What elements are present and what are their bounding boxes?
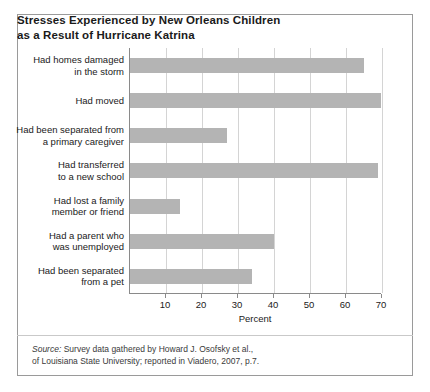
x-tick-40 <box>273 294 274 298</box>
bar-row: Had homes damaged in the storm <box>130 48 381 83</box>
bar-row: Had a parent who was unemployed <box>130 224 381 259</box>
x-tick-label-70: 70 <box>376 299 387 310</box>
bar-row: Had transferred to a new school <box>130 153 381 188</box>
chart-title-line-2: as a Result of Hurricane Katrina <box>17 28 357 43</box>
source-label: Source: <box>32 344 61 354</box>
plot-area: Had homes damaged in the stormHad movedH… <box>129 48 381 294</box>
gridline-70 <box>382 48 383 293</box>
category-label: Had been separated from a primary caregi… <box>0 124 124 147</box>
x-tick-10 <box>165 294 166 298</box>
source-divider <box>17 335 413 336</box>
x-tick-70 <box>381 294 382 298</box>
category-label: Had transferred to a new school <box>0 159 124 182</box>
bar-row: Had moved <box>130 83 381 118</box>
x-tick-label-30: 30 <box>232 299 243 310</box>
category-label: Had lost a family member or friend <box>0 195 124 218</box>
x-tick-label-40: 40 <box>268 299 279 310</box>
bar-series: Had homes damaged in the stormHad movedH… <box>130 48 381 293</box>
chart-title-line-1: Stresses Experienced by New Orleans Chil… <box>17 13 357 28</box>
x-tick-30 <box>237 294 238 298</box>
bar-row: Had been separated from a pet <box>130 259 381 294</box>
x-tick-label-10: 10 <box>160 299 171 310</box>
bar <box>130 128 227 143</box>
x-axis-title: Percent <box>129 313 381 324</box>
x-tick-label-60: 60 <box>340 299 351 310</box>
bar-row: Had been separated from a primary caregi… <box>130 118 381 153</box>
bar <box>130 269 252 284</box>
bar <box>130 58 364 73</box>
source-text-line-2: of Louisiana State University; reported … <box>32 356 259 366</box>
category-label: Had a parent who was unemployed <box>0 230 124 253</box>
bar-row: Had lost a family member or friend <box>130 189 381 224</box>
x-tick-20 <box>201 294 202 298</box>
x-tick-label-50: 50 <box>304 299 315 310</box>
category-label: Had moved <box>0 95 124 107</box>
x-tick-50 <box>309 294 310 298</box>
bar <box>130 163 378 178</box>
source-text-line-1: Survey data gathered by Howard J. Osofsk… <box>61 344 253 354</box>
source-note: Source: Survey data gathered by Howard J… <box>32 344 402 367</box>
x-tick-label-20: 20 <box>196 299 207 310</box>
bar <box>130 234 274 249</box>
chart-title: Stresses Experienced by New Orleans Chil… <box>17 13 357 43</box>
category-label: Had homes damaged in the storm <box>0 54 124 77</box>
bar <box>130 199 180 214</box>
category-label: Had been separated from a pet <box>0 265 124 288</box>
bar <box>130 93 381 108</box>
x-tick-60 <box>345 294 346 298</box>
